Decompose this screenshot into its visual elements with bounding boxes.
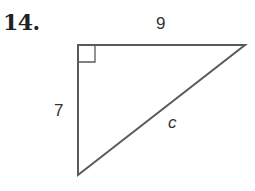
triangle-outline [78,45,245,175]
side-label-hypotenuse: c [168,113,177,133]
side-label-left: 7 [54,101,63,121]
right-angle-marker [78,45,95,62]
side-label-top: 9 [156,14,165,34]
right-triangle [0,0,255,191]
